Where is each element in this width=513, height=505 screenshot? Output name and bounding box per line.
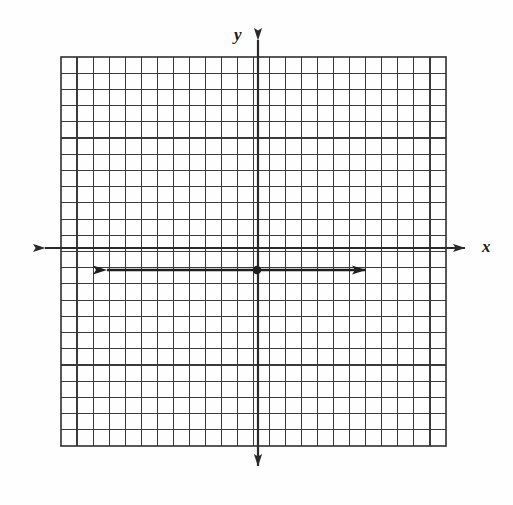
x-axis-label: x <box>482 238 491 255</box>
plotted-point <box>253 266 261 274</box>
figure-canvas: y x <box>0 0 513 505</box>
coordinate-grid-figure <box>0 0 513 505</box>
y-axis-label: y <box>234 26 242 43</box>
